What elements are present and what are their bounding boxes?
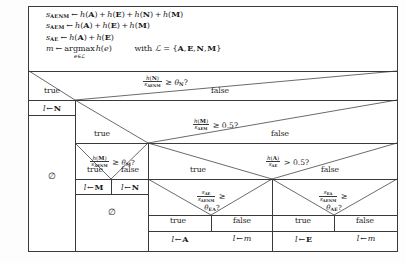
vrule-left-column (75, 100, 76, 252)
branch-l2-false: false (260, 129, 300, 138)
branch-root-false: false (200, 86, 240, 95)
leaf-m-var-2: l ← m (335, 234, 397, 243)
rule-level3-band (75, 179, 397, 180)
vrule-l4r-leafsplit (334, 215, 335, 231)
branch-l3r-true: true (178, 165, 218, 174)
figure-canvas: sAENM←h(A)+h(E)+h(N)+h(M) sAEM←h(A)+h(E)… (0, 0, 405, 263)
condition-theta-EA: sAEsAENM≥ θEA? (176, 190, 248, 215)
condition-theta-AE: sEAsAENM≥ θAE? (298, 190, 370, 215)
rule-root-band (29, 100, 397, 101)
emptyset-left: ∅ (29, 171, 75, 181)
rule-leaf-n-bottom (29, 115, 75, 116)
branch-l4l-false: false (224, 216, 260, 225)
rule-under-preamble (29, 71, 397, 72)
argmax-operator: argmaxe∈ℒ (64, 43, 95, 54)
branch-l4r-true: true (285, 216, 321, 225)
branch-l3l-false: false (113, 165, 147, 174)
preamble-block: sAENM←h(A)+h(E)+h(N)+h(M) sAEM←h(A)+h(E)… (46, 9, 346, 55)
branch-l2-true: true (82, 129, 122, 138)
preamble-line-s-aem: sAEM←h(A)+h(E)+h(M) (46, 20, 346, 31)
branch-l4r-false: false (347, 216, 383, 225)
branch-l3r-false: false (310, 165, 350, 174)
leaf-m-var-1: l ← m (212, 234, 272, 243)
branch-l4l-true: true (160, 216, 196, 225)
rule-level2-band (75, 143, 397, 144)
emptyset-middle: ∅ (76, 207, 148, 217)
rule-level3-leafline (75, 194, 148, 195)
branch-l3l-true: true (78, 165, 112, 174)
preamble-line-s-ae: sAE←h(A)+h(E) (46, 32, 346, 43)
preamble-line-m-argmax: m←argmaxe∈ℒ h(e) with ℒ = {A, E, N, M} (46, 43, 346, 54)
vrule-l4l-leafsplit (211, 215, 212, 231)
preamble-line-s-aenm: sAENM←h(A)+h(E)+h(N)+h(M) (46, 9, 346, 20)
branch-root-true: true (32, 86, 72, 95)
leaf-m: l ← M (76, 182, 111, 192)
leaf-a: l ← A (149, 234, 211, 244)
leaf-n-root: l ← N (29, 103, 75, 113)
leaf-e: l ← E (273, 234, 334, 244)
leaf-n: l ← N (112, 182, 148, 192)
